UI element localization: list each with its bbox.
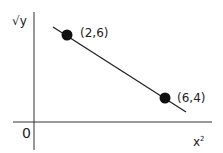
origin-label: 0: [22, 126, 31, 140]
point-2-label: (6,4): [177, 92, 205, 104]
x-axis-label-sup: 2: [200, 135, 204, 143]
point-2-6: [62, 30, 73, 41]
graph-canvas: [0, 0, 223, 153]
point-1-label: (2,6): [80, 27, 108, 39]
y-axis-label: √y: [12, 15, 27, 27]
x-axis-label: x2: [193, 136, 205, 148]
point-6-4: [160, 93, 171, 104]
y-axis-label-text: √y: [12, 14, 27, 28]
